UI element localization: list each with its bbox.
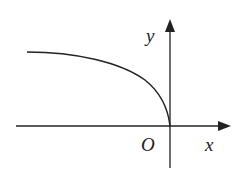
function-graph: y O x (0, 0, 243, 173)
y-axis-arrow-icon (165, 19, 175, 32)
x-axis-label: x (204, 134, 214, 155)
x-axis-arrow-icon (218, 121, 231, 131)
function-curve (27, 52, 170, 126)
origin-label: O (141, 134, 155, 155)
y-axis-label: y (144, 25, 155, 46)
